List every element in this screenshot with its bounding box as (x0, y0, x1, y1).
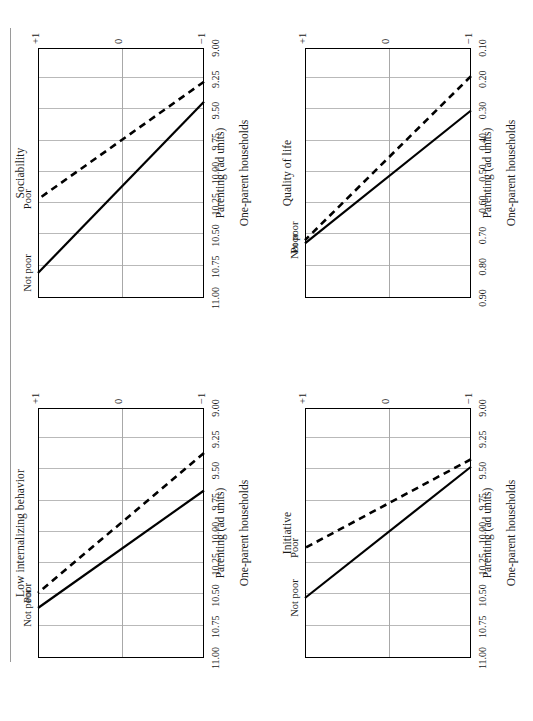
x-axis-tick-label: 0 (380, 18, 391, 44)
series-line-not-poor (38, 491, 204, 609)
series-line-poor (38, 453, 204, 593)
group-label: One-parent households (238, 408, 250, 658)
chart-quality-of-life: Quality of life Parenting (ad units) One… (267, 0, 533, 360)
series-line-poor (38, 82, 204, 200)
series-line-not-poor (305, 76, 471, 240)
x-axis-tick-label: −1 (196, 18, 207, 44)
series-lines (38, 48, 204, 298)
x-axis-tick-label: +1 (297, 18, 308, 44)
panel-sociability: Sociability Parenting (ad units) One-par… (0, 0, 266, 360)
series-line-poor (305, 459, 471, 548)
panel-low-internalizing-behavior: Low internalizing behavior Parenting (ad… (0, 360, 266, 720)
y-axis-tick-label: 9.00 (477, 378, 488, 438)
x-axis-tick-label: 0 (113, 18, 124, 44)
series-line-not-poor (305, 467, 471, 598)
x-axis-tick-label: +1 (297, 378, 308, 404)
group-label: One-parent households (238, 48, 250, 298)
x-axis-tick-label: −1 (463, 18, 474, 44)
figure-page: Sociability Parenting (ad units) One-par… (0, 0, 533, 721)
x-axis-tick-label: 0 (380, 378, 391, 404)
chart-initiative: Initiative Parenting (ad units) One-pare… (267, 360, 533, 720)
chart-low-internalizing-behavior: Low internalizing behavior Parenting (ad… (0, 360, 266, 720)
y-axis-tick-label: 9.00 (210, 378, 221, 438)
series-label-poor: Poor (22, 165, 33, 233)
series-label-not-poor: Not poor (289, 206, 300, 274)
group-label: One-parent households (505, 408, 517, 658)
series-lines (305, 408, 471, 658)
series-label-not-poor: Not poor (22, 239, 33, 307)
series-label-poor: Poor (289, 514, 300, 582)
y-axis-tick-label: 0.10 (477, 18, 488, 78)
group-label: One-parent households (505, 48, 517, 298)
x-axis-tick-label: −1 (196, 378, 207, 404)
x-axis-tick-label: −1 (463, 378, 474, 404)
series-lines (38, 408, 204, 658)
x-axis-tick-label: +1 (30, 18, 41, 44)
x-axis-tick-label: +1 (30, 378, 41, 404)
chart-sociability: Sociability Parenting (ad units) One-par… (0, 0, 266, 360)
series-line-poor (305, 111, 471, 244)
y-axis-tick-label: 9.00 (210, 18, 221, 78)
series-lines (305, 48, 471, 298)
panel-initiative: Initiative Parenting (ad units) One-pare… (267, 360, 533, 720)
series-line-not-poor (38, 102, 204, 273)
x-axis-tick-label: 0 (113, 378, 124, 404)
panel-quality-of-life: Quality of life Parenting (ad units) One… (267, 0, 533, 360)
series-label-poor: Poor (22, 559, 33, 627)
